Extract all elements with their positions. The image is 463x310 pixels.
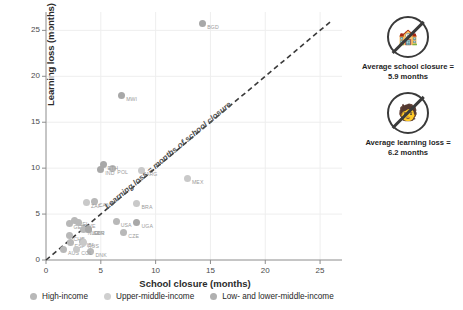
y-tick-15: 15: [18, 117, 40, 126]
annotation-learning-loss: 🧑 Average learning loss = 6.2 months: [356, 92, 460, 159]
annotation-learning-loss-line1: Average learning loss =: [356, 138, 460, 148]
data-point-label-IND: IND: [105, 170, 114, 176]
x-tick-25: 25: [308, 266, 332, 275]
legend-label-1: Upper-middle-income: [116, 292, 194, 301]
data-point-label-DNK: DNK: [95, 252, 106, 258]
legend-item-0[interactable]: High-income: [30, 292, 88, 301]
data-point-label-RUS: RUS: [88, 243, 99, 249]
legend-label-0: High-income: [42, 292, 88, 301]
x-tick-5: 5: [89, 266, 113, 275]
data-point-label-KEN: KEN: [93, 230, 104, 236]
x-axis-label: School closure (months): [0, 278, 390, 289]
data-point-GER[interactable]: [66, 220, 73, 227]
y-tick-20: 20: [18, 71, 40, 80]
annotation-school-closure-line2: 5.9 months: [356, 72, 460, 82]
data-point-label-COL: COL: [81, 250, 92, 256]
data-point-label-UGA: UGA: [141, 223, 153, 229]
chart-root: Learning loss (months) POLCANBELGERCHEUS…: [0, 0, 463, 310]
data-point-CHE[interactable]: [66, 232, 73, 239]
data-point-ZAF[interactable]: [83, 199, 90, 206]
data-point-label-ZAF: ZAF: [91, 203, 101, 209]
data-point-IND[interactable]: [97, 166, 104, 173]
legend-label-2: Low- and lower-middle-income: [222, 292, 334, 301]
data-point-label-POL: POL: [117, 169, 128, 175]
x-tick-20: 20: [253, 266, 277, 275]
y-tick-25: 25: [18, 25, 40, 34]
y-tick-10: 10: [18, 163, 40, 172]
data-point-MEX[interactable]: [184, 175, 191, 182]
slash-mark: [392, 21, 425, 54]
data-point-ESP[interactable]: [67, 239, 74, 246]
legend-dot-0: [30, 293, 37, 300]
plot-area: Learning loss (months) POLCANBELGERCHEUS…: [46, 12, 342, 260]
x-tick-10: 10: [144, 266, 168, 275]
legend-dot-1: [104, 293, 111, 300]
plot-canvas: POLCANBELGERCHEUSACZESWENLDGBRDNKAUSITAE…: [46, 12, 342, 260]
no-school-icon: 🏫: [387, 16, 429, 58]
legend-dot-2: [210, 293, 217, 300]
data-point-label-CZE: CZE: [128, 233, 139, 239]
data-point-label-MWI: MWI: [126, 96, 137, 102]
data-point-USA[interactable]: [113, 218, 120, 225]
annotation-school-closure-line1: Average school closure =: [356, 62, 460, 72]
y-tick-5: 5: [18, 209, 40, 218]
data-point-label-BGD: BGD: [207, 24, 219, 30]
data-point-RUS[interactable]: [80, 239, 87, 246]
x-tick-0: 0: [34, 266, 58, 275]
data-point-label-USA: USA: [121, 222, 132, 228]
side-annotations: 🏫 Average school closure = 5.9 months 🧑 …: [356, 16, 460, 167]
legend-item-2[interactable]: Low- and lower-middle-income: [210, 292, 334, 301]
data-point-BGD[interactable]: [199, 20, 206, 27]
slash-mark: [392, 96, 425, 129]
annotation-learning-loss-line2: 6.2 months: [356, 148, 460, 158]
no-learning-icon: 🧑: [387, 92, 429, 134]
legend-item-1[interactable]: Upper-middle-income: [104, 292, 194, 301]
annotation-school-closure: 🏫 Average school closure = 5.9 months: [356, 16, 460, 83]
x-tick-15: 15: [198, 266, 222, 275]
data-point-label-BRA: BRA: [141, 204, 152, 210]
data-point-label-MEX: MEX: [192, 179, 204, 185]
legend: High-incomeUpper-middle-incomeLow- and l…: [30, 292, 334, 301]
y-tick-0: 0: [18, 255, 40, 264]
